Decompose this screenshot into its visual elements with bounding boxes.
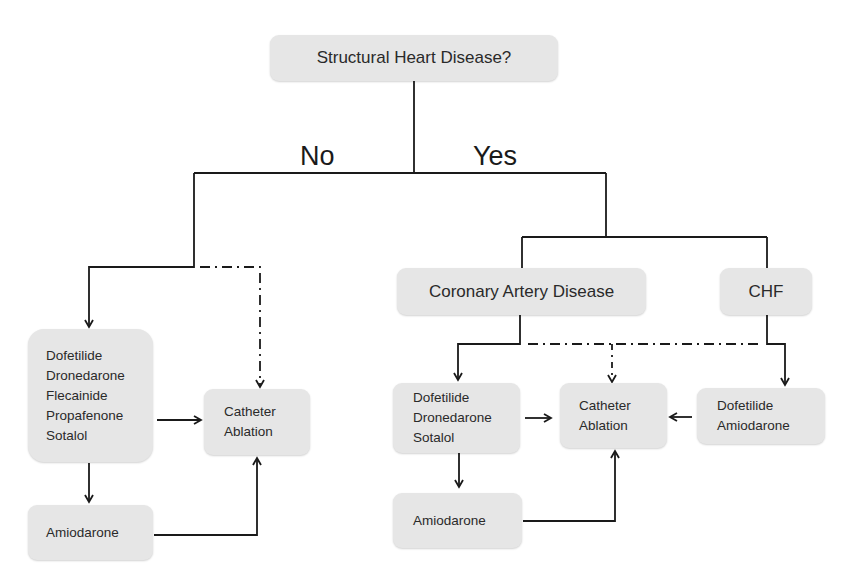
cad-amio-to-ablation xyxy=(523,451,615,521)
structural-heart-disease-node: Structural Heart Disease? xyxy=(270,35,558,81)
node-label: CHF xyxy=(749,282,784,302)
drug-item: Propafenone xyxy=(46,406,153,426)
no-ablation-node: Catheter Ablation xyxy=(204,389,310,455)
no-branch-line xyxy=(89,173,194,327)
no-label: No xyxy=(300,143,335,170)
drug-item: Dofetilide xyxy=(413,388,520,408)
no-amiodarone-node: Amiodarone xyxy=(28,505,153,560)
drug-item: Dronedarone xyxy=(46,366,153,386)
cad-drugs-node: Dofetilide Dronedarone Sotalol xyxy=(393,383,520,453)
chf-to-drugs xyxy=(767,315,785,385)
drug-item: Sotalol xyxy=(46,426,153,446)
drug-item: Flecainide xyxy=(46,386,153,406)
amiodarone-label: Amiodarone xyxy=(46,523,153,543)
drug-item: Sotalol xyxy=(413,428,520,448)
yes-label: Yes xyxy=(473,143,517,170)
drug-item: Dronedarone xyxy=(413,408,520,428)
node-label: Coronary Artery Disease xyxy=(429,282,614,302)
flowchart-canvas: No Yes Structural Heart Disease? Dofetil… xyxy=(0,0,846,576)
cad-node: Coronary Artery Disease xyxy=(397,268,646,315)
ablation-line-1: Catheter xyxy=(579,396,667,416)
chf-node: CHF xyxy=(720,268,812,315)
no-drugs-node: Dofetilide Dronedarone Flecainide Propaf… xyxy=(28,329,153,462)
amiodarone-label: Amiodarone xyxy=(413,511,522,531)
no-ablation-dashed xyxy=(200,267,260,387)
ablation-line-2: Ablation xyxy=(579,416,667,436)
ablation-line-2: Ablation xyxy=(224,422,310,442)
yes-ablation-node: Catheter Ablation xyxy=(560,383,667,448)
drug-item: Dofetilide xyxy=(717,396,825,416)
no-amio-to-ablation xyxy=(154,458,257,535)
drug-item: Amiodarone xyxy=(717,416,825,436)
cad-to-drugs xyxy=(458,315,520,380)
chf-drugs-node: Dofetilide Amiodarone xyxy=(697,388,825,444)
ablation-line-1: Catheter xyxy=(224,402,310,422)
drug-item: Dofetilide xyxy=(46,346,153,366)
cad-amiodarone-node: Amiodarone xyxy=(393,493,522,548)
node-label: Structural Heart Disease? xyxy=(317,48,512,68)
